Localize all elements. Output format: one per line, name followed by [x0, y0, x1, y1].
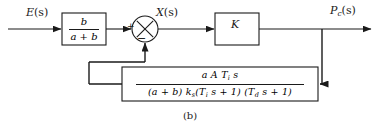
signal-output-arg: (s) — [342, 4, 356, 17]
feedback-den-part4: s + 1) — [259, 86, 292, 97]
input-gain-fraction-bar — [69, 29, 99, 30]
signal-mid-arg: (s) — [164, 6, 178, 19]
input-gain-expression: b a + b — [62, 13, 106, 45]
input-gain-numerator: b — [81, 16, 87, 28]
feedback-den-part1: (a + b) k — [148, 86, 192, 97]
feedback-num-text: a A T — [202, 69, 228, 80]
input-gain-denominator: a + b — [70, 31, 97, 43]
signal-label-mid: X(s) — [156, 7, 178, 18]
feedback-fraction-bar — [136, 84, 304, 85]
signal-input-base: E — [26, 6, 34, 19]
feedback-den-part3: s + 1) (T — [208, 86, 255, 97]
block-diagram-figure: E(s) X(s) Pc(s) b a + b K + − a A Ti s (… — [0, 0, 380, 130]
signal-label-output: Pc(s) — [330, 5, 356, 17]
feedback-den-part2: (T — [195, 86, 205, 97]
feedback-num-tail: s — [230, 69, 238, 80]
feedback-numerator: a A Ti s — [202, 69, 238, 82]
feedback-transfer-function: a A Ti s (a + b) ks(Ti s + 1) (Td s + 1) — [122, 67, 318, 101]
summing-junction-plus-sign: + — [127, 22, 135, 31]
signal-input-arg: (s) — [34, 6, 48, 19]
figure-caption: (b) — [0, 110, 380, 121]
summing-junction-minus-sign: − — [137, 33, 146, 44]
feedback-denominator: (a + b) ks(Ti s + 1) (Td s + 1) — [148, 86, 292, 99]
signal-label-input: E(s) — [26, 7, 48, 18]
signal-mid-base: X — [156, 6, 164, 19]
forward-gain-label: K — [231, 19, 239, 30]
